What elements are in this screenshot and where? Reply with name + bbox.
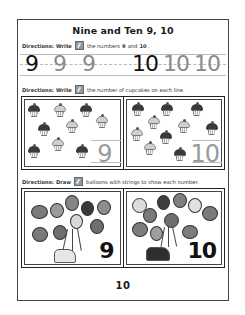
- balloon-icon: [143, 208, 157, 223]
- cupcake-icon: [80, 105, 92, 117]
- balloon-icon: [202, 206, 218, 221]
- cupcake-icon: [148, 117, 160, 129]
- directions-and: and: [128, 43, 138, 49]
- balloon-string: [72, 229, 73, 251]
- trace-digit-9-dotted: 9: [82, 51, 96, 77]
- cupcake-icon: [178, 121, 190, 133]
- number-nine: 9: [122, 43, 126, 49]
- balloon-panel-nine[interactable]: 9: [22, 189, 123, 267]
- trace-digit-10-dotted: 10: [163, 51, 189, 77]
- balloon-icon: [173, 193, 187, 208]
- cupcake-icon: [28, 146, 40, 158]
- directions-write-numbers: Directions: Write the numbers 9 and 10.: [22, 41, 149, 50]
- cupcake-icon: [66, 121, 78, 133]
- balloon-icon: [50, 203, 64, 218]
- balloon-icon: [132, 222, 148, 237]
- cupcake-icon: [191, 104, 203, 116]
- balloon-icon: [65, 195, 79, 211]
- cupcake-icon: [52, 139, 64, 151]
- balloon-label-nine: 9: [99, 238, 114, 264]
- cupcake-panel-ten: 10: [123, 97, 225, 169]
- cupcake-icon: [131, 129, 143, 141]
- cupcake-icon: [206, 123, 218, 135]
- number-ten: 10: [139, 43, 146, 49]
- cupcake-icon: [174, 149, 186, 161]
- cupcake-icon: [96, 116, 108, 128]
- cupcake-icon: [161, 104, 173, 116]
- cupcake-icon: [76, 146, 88, 158]
- pencil-icon: [75, 41, 84, 50]
- balloon-icon: [90, 219, 104, 234]
- balloon-icon: [182, 225, 198, 239]
- cupcake-panels: 9 10: [21, 96, 225, 170]
- directions-text: the number of cupcakes on each line.: [87, 87, 185, 93]
- trace-digit-9-solid: 9: [25, 51, 39, 77]
- cupcake-icon: [160, 132, 172, 144]
- balloon-icon: [164, 213, 179, 228]
- worksheet-page: Nine and Ten 9, 10 Directions: Write the…: [17, 19, 229, 301]
- balloon-icon: [81, 201, 94, 216]
- balloon-icon: [97, 200, 111, 215]
- directions-text: the numbers: [87, 43, 120, 49]
- tracing-row[interactable]: 9 9 9 10 10 10: [20, 52, 226, 78]
- directions-verb: Draw: [56, 179, 71, 185]
- pencil-icon: [75, 85, 84, 94]
- balloon-icon: [188, 198, 202, 213]
- directions-label: Directions:: [22, 179, 54, 185]
- balloon-icon: [150, 226, 163, 241]
- balloon-panel-ten[interactable]: 10: [123, 189, 225, 267]
- cupcake-icon: [38, 124, 50, 136]
- cupcake-answer-ten[interactable]: 10: [190, 141, 219, 167]
- directions-write-cupcakes: Directions: Write the number of cupcakes…: [22, 85, 185, 94]
- directions-verb: Write: [56, 87, 72, 93]
- directions-label: Directions:: [22, 43, 54, 49]
- page-title: Nine and Ten 9, 10: [18, 25, 228, 36]
- page-number: 10: [18, 280, 228, 291]
- balloon-icon: [31, 205, 48, 219]
- balloon-panels: 9 10: [21, 188, 225, 268]
- hand-icon: [54, 249, 76, 263]
- cupcake-panel-nine: 9: [22, 97, 123, 169]
- period: .: [148, 43, 150, 49]
- trace-digit-10-dotted: 10: [194, 51, 220, 77]
- balloon-icon: [32, 227, 48, 242]
- balloon-label-ten: 10: [187, 238, 216, 264]
- balloon-icon: [157, 195, 170, 210]
- directions-verb: Write: [56, 43, 72, 49]
- cupcake-answer-nine[interactable]: 9: [97, 141, 112, 167]
- balloon-icon: [70, 214, 83, 229]
- cupcake-icon: [144, 143, 156, 155]
- cupcake-icon: [132, 104, 144, 116]
- directions-text: balloons with strings to show each numbe…: [86, 179, 199, 185]
- balloon-string: [168, 227, 169, 247]
- directions-label: Directions:: [22, 87, 54, 93]
- cupcake-icon: [28, 105, 40, 117]
- cupcake-icon: [54, 105, 66, 117]
- directions-draw-balloons: Directions: Draw balloons with strings t…: [22, 177, 199, 186]
- hand-icon: [146, 247, 170, 261]
- trace-digit-10-solid: 10: [132, 51, 158, 77]
- pencil-icon: [74, 177, 83, 186]
- trace-digit-9-dotted: 9: [53, 51, 67, 77]
